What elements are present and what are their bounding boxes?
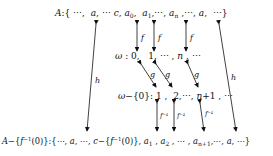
finv-arrow-n bbox=[200, 103, 204, 131]
set-A-minus-row: A−{f⁻¹(0)}:{⋯, a, ⋯, c−{f⁻¹(0)}, a1, a2,… bbox=[2, 136, 250, 147]
g-label-n: g bbox=[194, 70, 199, 79]
set-omega-minus-zero-row: ω−{0}: 1, 2,⋯, n+1, ⋯ ω−{0}: 1 , 2,⋯, n+… bbox=[118, 91, 233, 102]
set-omega-row: ω : 0, 1, ⋯ , n , ⋯ ω : 0, 1, ⋯ , n , ⋯ bbox=[115, 51, 201, 62]
f-label-0: f bbox=[141, 33, 144, 42]
finv-label-n: f⁻¹ bbox=[205, 110, 213, 119]
finv-label-1: f⁻¹ bbox=[160, 112, 168, 121]
g-label-1: g bbox=[165, 70, 170, 79]
f-label-n: f bbox=[190, 33, 193, 42]
set-A-row: A:{ ⋯, a, ⋯ c, a0, a1,⋯, an ,⋯, a, ⋯} A:… bbox=[55, 8, 227, 19]
h-label-right: h bbox=[231, 73, 236, 82]
f-label-1: f bbox=[158, 33, 161, 42]
h-label-left: h bbox=[95, 76, 100, 85]
g-label-0: g bbox=[150, 70, 155, 79]
finv-label-2: f⁻¹ bbox=[177, 112, 185, 121]
